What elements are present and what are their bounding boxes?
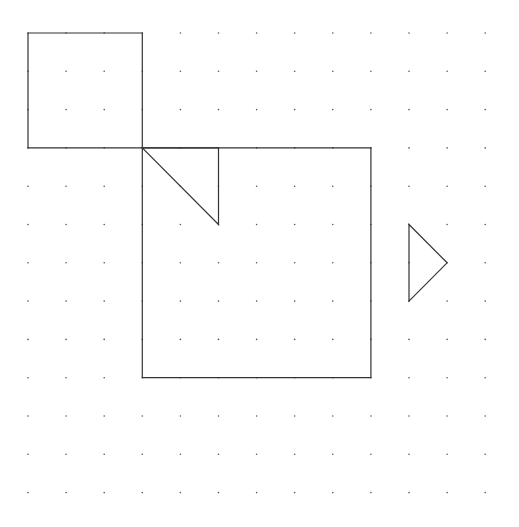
grid-dot	[446, 415, 448, 417]
grid-dot	[65, 185, 67, 187]
grid-dot	[446, 492, 448, 494]
grid-dot	[294, 185, 296, 187]
grid-dot	[27, 262, 29, 264]
grid-dot	[484, 300, 486, 302]
grid-dot	[103, 454, 105, 456]
grid-dot	[484, 185, 486, 187]
grid-dot	[256, 492, 258, 494]
grid-dot	[446, 224, 448, 226]
grid-dot	[484, 32, 486, 34]
grid-dot	[65, 339, 67, 341]
grid-dot	[103, 262, 105, 264]
grid-dot	[27, 300, 29, 302]
grid-dot	[294, 262, 296, 264]
dot-grid-canvas	[0, 0, 519, 527]
grid-dot	[142, 492, 144, 494]
grid-dot	[256, 454, 258, 456]
grid-dot	[27, 415, 29, 417]
grid-dot	[218, 300, 220, 302]
grid-dot	[408, 454, 410, 456]
grid-dot	[180, 262, 182, 264]
grid-dot	[218, 492, 220, 494]
grid-dot	[484, 71, 486, 73]
grid-dot	[180, 109, 182, 111]
grid-dot	[446, 339, 448, 341]
grid-dot	[65, 300, 67, 302]
grid-dot	[218, 32, 220, 34]
grid-dot	[256, 224, 258, 226]
grid-dot	[370, 415, 372, 417]
grid-dot	[294, 109, 296, 111]
grid-dot	[484, 147, 486, 149]
grid-dot	[27, 185, 29, 187]
grid-dot	[370, 32, 372, 34]
grid-dot	[103, 492, 105, 494]
grid-dot	[65, 377, 67, 379]
grid-dot	[256, 71, 258, 73]
grid-dot	[332, 32, 334, 34]
grid-dot	[218, 454, 220, 456]
grid-dot	[180, 224, 182, 226]
grid-dot	[370, 454, 372, 456]
grid-dot	[332, 454, 334, 456]
grid-dot	[218, 262, 220, 264]
grid-dot	[65, 109, 67, 111]
grid-dot	[103, 339, 105, 341]
grid-dot	[180, 415, 182, 417]
grid-dot	[332, 71, 334, 73]
grid-dot	[484, 377, 486, 379]
grid-dot	[332, 109, 334, 111]
grid-dot	[256, 339, 258, 341]
grid-dot	[180, 454, 182, 456]
grid-dot	[142, 415, 144, 417]
grid-dot	[27, 454, 29, 456]
grid-dot	[408, 71, 410, 73]
grid-dot	[408, 185, 410, 187]
grid-dot	[446, 185, 448, 187]
grid-dot	[103, 185, 105, 187]
grid-dot	[408, 492, 410, 494]
grid-dot	[65, 415, 67, 417]
grid-dot	[256, 32, 258, 34]
grid-dot	[332, 224, 334, 226]
grid-dot	[218, 109, 220, 111]
grid-dot	[446, 377, 448, 379]
grid-dot	[294, 415, 296, 417]
grid-dot	[256, 262, 258, 264]
grid-dot	[294, 32, 296, 34]
grid-dot	[103, 71, 105, 73]
grid-dot	[180, 32, 182, 34]
grid-dot	[332, 185, 334, 187]
grid-dot	[180, 492, 182, 494]
grid-dot	[180, 71, 182, 73]
grid-dot	[294, 300, 296, 302]
grid-dot	[27, 377, 29, 379]
grid-dot	[446, 71, 448, 73]
grid-dot	[256, 109, 258, 111]
grid-dot	[484, 415, 486, 417]
grid-dot	[294, 454, 296, 456]
grid-dot	[27, 339, 29, 341]
grid-dot	[370, 109, 372, 111]
grid-dot	[484, 224, 486, 226]
grid-dot	[294, 71, 296, 73]
grid-dot	[446, 147, 448, 149]
grid-dot	[446, 454, 448, 456]
grid-dot	[484, 339, 486, 341]
grid-dot	[294, 492, 296, 494]
grid-dot	[256, 415, 258, 417]
grid-dot	[446, 32, 448, 34]
grid-dot	[65, 71, 67, 73]
grid-dot	[332, 415, 334, 417]
grid-dot	[408, 339, 410, 341]
grid-dot	[332, 339, 334, 341]
grid-dot	[332, 300, 334, 302]
grid-dot	[103, 377, 105, 379]
grid-dot	[65, 492, 67, 494]
grid-dot	[484, 492, 486, 494]
grid-dot	[408, 415, 410, 417]
grid-dot	[484, 454, 486, 456]
grid-dot	[484, 262, 486, 264]
grid-dot	[408, 32, 410, 34]
grid-dot	[446, 109, 448, 111]
